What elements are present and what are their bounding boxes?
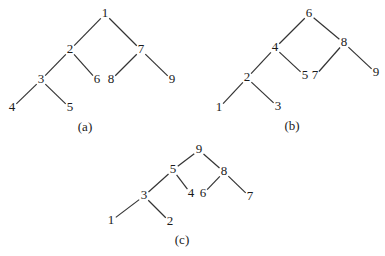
tree-b-node: 9 bbox=[373, 64, 380, 79]
tree-c-edge-3-2 bbox=[148, 200, 166, 218]
tree-b-edge-2-3 bbox=[251, 82, 273, 103]
tree-b-edge-4-5 bbox=[279, 52, 300, 72]
tree-a-caption: (a) bbox=[78, 119, 92, 134]
tree-b-node: 4 bbox=[272, 39, 279, 54]
tree-a-edge-3-5 bbox=[45, 84, 65, 104]
tree-b-node: 1 bbox=[216, 99, 223, 114]
tree-b-node: 8 bbox=[341, 34, 348, 49]
tree-c-node: 8 bbox=[221, 163, 228, 178]
tree-c-node: 2 bbox=[167, 213, 174, 228]
tree-a-node: 6 bbox=[94, 71, 101, 86]
tree-b-node: 6 bbox=[306, 5, 313, 20]
tree-c-edge-3-1 bbox=[116, 200, 139, 218]
tree-b-node: 7 bbox=[312, 67, 319, 82]
tree-a-node: 5 bbox=[67, 99, 74, 114]
tree-a-edge-1-7 bbox=[109, 18, 137, 46]
tree-a-node: 9 bbox=[169, 71, 176, 86]
tree-b-edge-8-9 bbox=[348, 47, 371, 69]
tree-c-node: 7 bbox=[247, 188, 254, 203]
tree-c-edge-8-6 bbox=[207, 176, 220, 189]
tree-c-edge-5-3 bbox=[148, 174, 168, 192]
tree-a-node: 7 bbox=[138, 41, 145, 56]
tree-c-edge-9-5 bbox=[178, 154, 194, 167]
tree-b-edge-6-8 bbox=[314, 18, 340, 39]
tree-a-edge-1-2 bbox=[74, 18, 101, 45]
tree-c-edge-9-8 bbox=[204, 154, 220, 168]
tree-a-edge-7-9 bbox=[145, 54, 167, 76]
tree-a: 127368945(a) bbox=[9, 5, 176, 134]
tree-a-node: 8 bbox=[108, 71, 115, 86]
tree-b-caption: (b) bbox=[284, 118, 299, 133]
tree-a-node: 2 bbox=[67, 41, 74, 56]
tree-a-edge-7-8 bbox=[115, 54, 137, 76]
tree-c-node: 3 bbox=[141, 187, 148, 202]
tree-a-edge-3-4 bbox=[16, 84, 36, 104]
tree-b-node: 3 bbox=[275, 98, 282, 113]
tree-a-node: 1 bbox=[102, 5, 109, 20]
tree-a-edge-2-3 bbox=[45, 54, 66, 75]
tree-c-node: 4 bbox=[188, 185, 195, 200]
binary-trees-diagram: 127368945(a) 648257913(b) 958346712(c) bbox=[0, 0, 385, 256]
tree-c-node: 1 bbox=[108, 212, 115, 227]
tree-c-node: 9 bbox=[196, 141, 203, 156]
tree-b-edge-6-4 bbox=[279, 18, 305, 44]
tree-c: 958346712(c) bbox=[108, 141, 254, 247]
tree-b-node: 2 bbox=[244, 69, 251, 84]
tree-b-edge-4-2 bbox=[251, 52, 271, 73]
tree-c-caption: (c) bbox=[175, 232, 189, 247]
tree-a-edge-2-6 bbox=[74, 54, 93, 75]
tree-b-edge-8-7 bbox=[319, 48, 340, 72]
tree-b-edge-2-1 bbox=[223, 82, 243, 103]
tree-a-node: 4 bbox=[9, 99, 16, 114]
tree-a-node: 3 bbox=[38, 71, 45, 86]
tree-b-node: 5 bbox=[302, 67, 309, 82]
tree-c-node: 6 bbox=[200, 185, 207, 200]
tree-b: 648257913(b) bbox=[216, 5, 380, 133]
tree-c-edge-8-7 bbox=[228, 176, 245, 193]
tree-c-edge-5-4 bbox=[177, 175, 188, 189]
tree-c-node: 5 bbox=[170, 161, 177, 176]
